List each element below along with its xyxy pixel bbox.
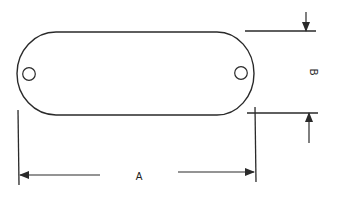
slot-plate-diagram: B A (0, 0, 339, 203)
rounded-slot-outline (17, 32, 254, 115)
right-hole (235, 67, 248, 80)
dimension-label-a: A (136, 171, 143, 182)
left-hole (23, 68, 36, 81)
dimension-label-b: B (308, 69, 319, 76)
left-extension-line (18, 110, 19, 185)
right-extension-line (255, 107, 256, 182)
